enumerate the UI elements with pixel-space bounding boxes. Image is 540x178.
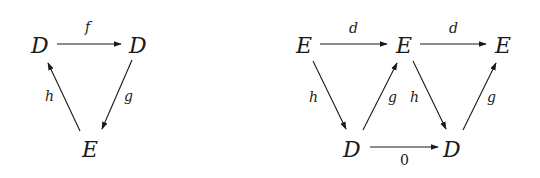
node-E1: E (81, 137, 98, 162)
node-D2: D (128, 33, 147, 58)
label-f: f (84, 19, 93, 35)
label-d2: d (449, 20, 458, 36)
label-h: h (45, 88, 54, 104)
node-D1: D (30, 33, 49, 58)
label-h1: h (309, 89, 318, 105)
label-d1: d (349, 20, 358, 36)
diagram-canvas: D D E f g h E E E D D d d h g h g 0 (0, 0, 540, 178)
label-g1: g (388, 89, 397, 105)
sequence-diagram: E E E D D d d h g h g 0 (295, 20, 511, 168)
node-D1: D (342, 137, 361, 162)
triangle-diagram: D D E f g h (30, 19, 147, 162)
label-h2: h (410, 89, 419, 105)
label-zero: 0 (400, 152, 409, 168)
node-E2: E (395, 33, 412, 58)
label-g: g (124, 88, 133, 104)
node-E3: E (494, 33, 511, 58)
node-E1: E (295, 33, 312, 58)
node-D2: D (442, 137, 461, 162)
label-g2: g (487, 89, 496, 105)
